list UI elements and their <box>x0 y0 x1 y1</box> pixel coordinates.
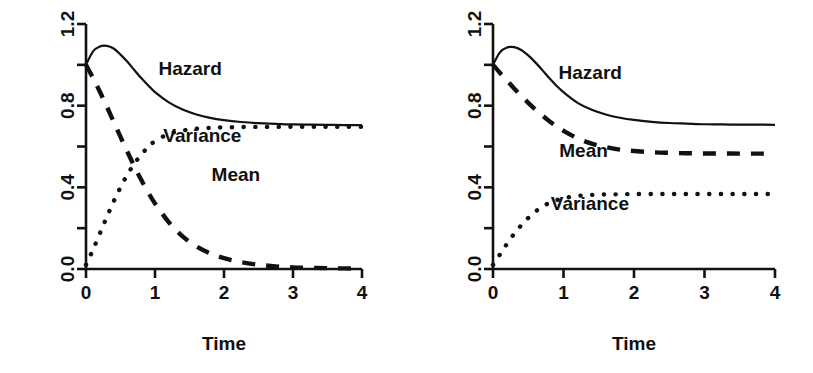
x-tick-labels: 01234 <box>81 282 368 303</box>
x-axis-right: 01234 <box>488 269 781 303</box>
series-labels: HazardMeanVariance <box>551 62 629 214</box>
x-tick-label: 3 <box>699 282 710 303</box>
series-curve-variance <box>493 194 775 265</box>
x-ticks <box>493 269 775 278</box>
x-tick-label: 0 <box>488 282 499 303</box>
series-curve-hazard <box>493 47 775 125</box>
x-tick-label: 1 <box>150 282 161 303</box>
series-label-mean: Mean <box>212 164 261 185</box>
y-tick-label: 0.8 <box>464 92 485 118</box>
y-ticks <box>77 24 86 269</box>
y-ticks <box>484 24 493 269</box>
series-group <box>86 46 362 269</box>
y-tick-labels: 0.00.40.81.2 <box>57 11 78 282</box>
series-curve-mean <box>493 65 775 154</box>
series-label-variance: Variance <box>163 125 241 146</box>
x-tick-label: 2 <box>219 282 230 303</box>
y-axis-right: 0.00.40.81.2 <box>464 11 493 282</box>
y-tick-label: 0.8 <box>57 92 78 118</box>
x-tick-labels: 01234 <box>488 282 781 303</box>
y-tick-label: 0.4 <box>57 174 78 201</box>
x-axis-title: Time <box>612 333 656 354</box>
series-label-mean: Mean <box>559 140 608 161</box>
figure-canvas: 0.00.40.81.2 01234 HazardMeanVariance Ti… <box>0 0 813 373</box>
x-axis-title: Time <box>202 333 246 354</box>
chart-panel-left: 0.00.40.81.2 01234 HazardMeanVariance Ti… <box>0 0 407 373</box>
plot-svg-right: 0.00.40.81.2 01234 HazardMeanVariance Ti… <box>406 0 813 373</box>
series-label-hazard: Hazard <box>158 58 221 79</box>
series-curve-hazard <box>86 46 362 125</box>
series-curve-variance <box>86 127 362 265</box>
y-tick-labels: 0.00.40.81.2 <box>464 11 485 282</box>
y-tick-label: 1.2 <box>57 11 78 37</box>
y-axis-left: 0.00.40.81.2 <box>57 11 86 282</box>
x-tick-label: 4 <box>770 282 781 303</box>
x-tick-label: 4 <box>357 282 368 303</box>
y-tick-label: 0.4 <box>464 174 485 201</box>
plot-svg-left: 0.00.40.81.2 01234 HazardMeanVariance Ti… <box>0 0 407 373</box>
x-ticks <box>86 269 362 278</box>
x-axis-left: 01234 <box>81 269 368 303</box>
chart-panel-right: 0.00.40.81.2 01234 HazardMeanVariance Ti… <box>406 0 813 373</box>
series-group <box>493 47 775 265</box>
y-tick-label: 1.2 <box>464 11 485 37</box>
x-tick-label: 2 <box>629 282 640 303</box>
x-tick-label: 3 <box>288 282 299 303</box>
y-tick-label: 0.0 <box>464 256 485 282</box>
x-tick-label: 1 <box>558 282 569 303</box>
y-tick-label: 0.0 <box>57 256 78 282</box>
x-tick-label: 0 <box>81 282 92 303</box>
series-label-hazard: Hazard <box>559 62 622 83</box>
series-label-variance: Variance <box>551 193 629 214</box>
